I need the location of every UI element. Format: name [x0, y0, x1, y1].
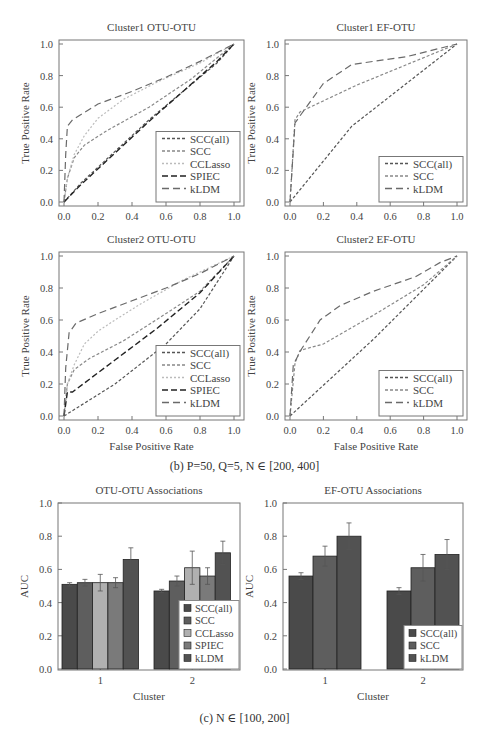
y-axis-label: True Positive Rate	[245, 295, 257, 377]
x-tick-label: 0.6	[384, 425, 397, 436]
x-tick-label: 0.8	[193, 211, 206, 222]
y-tick-label: 1.0	[266, 39, 279, 50]
legend-label: CCLasso	[190, 372, 231, 384]
y-tick-label: 0.2	[39, 631, 52, 642]
y-tick-label: 0.4	[39, 598, 53, 609]
x-tick-label: 2	[190, 675, 195, 686]
legend-label: CCLasso	[190, 158, 231, 170]
x-tick-label: 0.2	[91, 211, 104, 222]
x-tick-label: 0.4	[350, 425, 364, 436]
caption-b: (b) P=50, Q=5, N ∈ [200, 400]	[0, 459, 489, 474]
bar-spiec-cluster1	[108, 583, 123, 669]
legend-swatch	[184, 642, 191, 649]
x-tick-label: 1.0	[450, 211, 463, 222]
legend-label: kLDM	[413, 183, 443, 195]
legend-label: SCC(all)	[195, 603, 233, 615]
y-tick-label: 0.0	[39, 664, 52, 675]
legend: SCC(all)SCCCCLassoSPIECkLDM	[179, 601, 239, 670]
legend-label: kLDM	[413, 397, 443, 409]
y-tick-label: 0.6	[266, 315, 279, 326]
bar-otu-otu-associations: OTU-OTU Associations0.00.20.40.60.81.012…	[0, 478, 245, 703]
x-tick-label: 0.0	[283, 211, 296, 222]
y-tick-label: 0.8	[40, 71, 53, 82]
y-tick-label: 0.8	[264, 531, 277, 542]
x-tick-label: 1.0	[450, 425, 463, 436]
y-tick-label: 1.0	[266, 251, 279, 262]
legend-label: SCC	[190, 145, 211, 157]
y-tick-label: 0.0	[264, 664, 277, 675]
y-axis-label: AUC	[18, 575, 30, 598]
x-tick-label: 0.0	[57, 211, 70, 222]
chart-title: EF-OTU Associations	[324, 484, 421, 496]
chart-title: Cluster2 OTU-OTU	[107, 233, 196, 245]
legend-label: kLDM	[190, 183, 220, 195]
bar-sccall-cluster1	[289, 576, 313, 669]
x-axis-label: Cluster	[357, 690, 389, 702]
legend-label: kLDM	[195, 653, 224, 664]
bar-kldm-cluster1	[123, 559, 138, 669]
y-tick-label: 0.8	[266, 283, 279, 294]
y-tick-label: 0.8	[39, 531, 52, 542]
y-tick-label: 0.6	[40, 315, 53, 326]
chart-title: Cluster1 EF-OTU	[336, 21, 415, 33]
y-tick-label: 0.0	[40, 197, 53, 208]
y-tick-label: 1.0	[264, 498, 277, 509]
chart-title: Cluster1 OTU-OTU	[107, 21, 196, 33]
legend-label: SPIEC	[190, 170, 220, 182]
x-tick-label: 0.2	[317, 425, 330, 436]
legend-label: SPIEC	[190, 384, 220, 396]
y-axis-label: True Positive Rate	[19, 295, 31, 377]
y-tick-label: 0.4	[40, 347, 54, 358]
x-tick-label: 1.0	[227, 211, 240, 222]
legend-label: SCC	[190, 359, 211, 371]
chart-title: OTU-OTU Associations	[95, 484, 202, 496]
x-tick-label: 0.6	[159, 211, 172, 222]
legend-swatch	[409, 655, 416, 662]
legend-label: SCC(all)	[413, 158, 452, 171]
legend-swatch	[409, 630, 416, 637]
x-tick-label: 0.6	[159, 425, 172, 436]
legend-label: SPIEC	[195, 640, 224, 651]
legend-label: SCC(all)	[420, 628, 458, 640]
y-tick-label: 0.6	[266, 102, 279, 113]
y-axis-label: True Positive Rate	[19, 82, 31, 164]
caption-c: (c) N ∈ [100, 200]	[0, 711, 489, 726]
y-tick-label: 0.6	[264, 564, 277, 575]
x-axis-label: False Positive Rate	[334, 440, 418, 452]
y-tick-label: 0.6	[40, 102, 53, 113]
legend: SCC(all)SCCCCLassoSPIECkLDM	[156, 346, 240, 417]
roc-cluster2-otu-otu: Cluster2 OTU-OTU0.00.20.40.60.81.00.00.2…	[0, 222, 245, 452]
legend: SCC(all)SCCkLDM	[404, 626, 462, 670]
y-tick-label: 0.4	[264, 598, 278, 609]
bar-scc-cluster1	[77, 583, 92, 669]
y-tick-label: 0.8	[40, 283, 53, 294]
x-tick-label: 1	[98, 675, 103, 686]
x-tick-label: 0.8	[417, 211, 430, 222]
legend: SCC(all)SCCCCLassoSPIECkLDM	[156, 132, 240, 203]
x-tick-label: 0.4	[350, 211, 364, 222]
x-tick-label: 1.0	[227, 425, 240, 436]
y-tick-label: 1.0	[40, 39, 53, 50]
legend-label: SCC	[420, 640, 440, 651]
legend: SCC(all)SCCkLDM	[379, 371, 463, 417]
y-tick-label: 0.4	[266, 347, 280, 358]
legend-swatch	[184, 617, 191, 624]
y-tick-label: 0.0	[40, 411, 53, 422]
y-tick-label: 0.4	[40, 134, 54, 145]
x-tick-label: 2	[420, 675, 425, 686]
y-tick-label: 0.2	[40, 165, 53, 176]
y-tick-label: 0.0	[266, 411, 279, 422]
bar-ef-otu-associations: EF-OTU Associations0.00.20.40.60.81.012A…	[245, 478, 489, 703]
legend-swatch	[184, 630, 191, 637]
y-tick-label: 0.6	[39, 564, 52, 575]
bar-sccall-cluster1	[62, 584, 77, 669]
bar-cclasso-cluster1	[93, 583, 108, 669]
legend-label: SCC(all)	[413, 372, 452, 385]
x-tick-label: 1	[322, 675, 327, 686]
y-tick-label: 0.2	[266, 165, 279, 176]
bar-kldm-cluster1	[337, 536, 361, 669]
x-tick-label: 0.8	[193, 425, 206, 436]
chart-title: Cluster2 EF-OTU	[336, 233, 415, 245]
y-tick-label: 1.0	[39, 498, 52, 509]
y-tick-label: 0.2	[264, 631, 277, 642]
